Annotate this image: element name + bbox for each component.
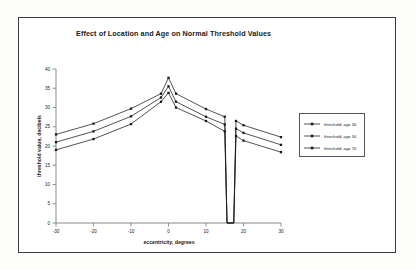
y-tick-label: 0 — [47, 221, 50, 226]
series-marker — [160, 92, 162, 94]
y-tick-label: 30 — [45, 105, 51, 110]
legend-canvas: threshold, age 30threshold, age 50thresh… — [300, 114, 364, 156]
y-tick-label: 15 — [45, 163, 51, 168]
series-marker — [280, 151, 282, 153]
series-marker — [205, 120, 207, 122]
y-axis-ticks: 0510152025303540 — [45, 67, 56, 226]
series-marker — [224, 116, 226, 118]
series-marker — [175, 106, 177, 108]
legend-entries: threshold, age 30threshold, age 50thresh… — [304, 122, 357, 151]
series-marker — [55, 149, 57, 151]
x-tick-label: 30 — [278, 229, 284, 234]
series-marker — [175, 101, 177, 103]
series-marker — [160, 96, 162, 98]
series-marker — [205, 108, 207, 110]
x-axis: -30-20-100102030 — [53, 223, 284, 234]
series-marker — [92, 130, 94, 132]
y-tick-label: 25 — [45, 124, 51, 129]
series-marker — [167, 85, 169, 87]
series-line — [56, 78, 281, 223]
series-threshold-age-50 — [55, 85, 282, 223]
legend-label: threshold, age 70 — [324, 146, 357, 151]
series-marker — [242, 139, 244, 141]
y-tick-label: 20 — [45, 144, 51, 149]
series-marker — [130, 123, 132, 125]
legend-marker — [311, 135, 314, 138]
series-line — [56, 86, 281, 223]
series-line — [56, 93, 281, 223]
series-marker — [242, 132, 244, 134]
series-marker — [130, 115, 132, 117]
y-axis: 0510152025303540 — [45, 67, 56, 226]
y-tick-label: 35 — [45, 86, 51, 91]
x-tick-label: 20 — [241, 229, 247, 234]
series-marker — [235, 128, 237, 130]
legend-label: threshold, age 50 — [324, 134, 357, 139]
x-tick-label: -10 — [128, 229, 135, 234]
series-marker — [167, 77, 169, 79]
series-marker — [280, 144, 282, 146]
series-marker — [224, 130, 226, 132]
x-tick-label: -30 — [53, 229, 60, 234]
x-axis-ticks: -30-20-100102030 — [53, 223, 284, 234]
x-tick-label: -20 — [90, 229, 97, 234]
series-marker — [92, 138, 94, 140]
series-marker — [160, 101, 162, 103]
series-marker — [175, 92, 177, 94]
series-marker — [92, 123, 94, 125]
series-marker — [235, 135, 237, 137]
legend-label: threshold, age 30 — [324, 122, 357, 127]
chart-title: Effect of Location and Age on Normal Thr… — [76, 29, 271, 38]
y-tick-label: 10 — [45, 182, 51, 187]
series-marker — [205, 116, 207, 118]
y-tick-label: 5 — [47, 201, 50, 206]
y-tick-label: 40 — [45, 67, 51, 72]
plot-series-group — [55, 77, 282, 223]
y-axis-label: threshold value, decibels — [36, 115, 42, 177]
legend-marker — [311, 147, 314, 150]
series-marker — [55, 141, 57, 143]
series-marker — [280, 136, 282, 138]
x-tick-label: 0 — [167, 229, 170, 234]
series-marker — [130, 108, 132, 110]
chart-legend: threshold, age 30threshold, age 50thresh… — [299, 113, 365, 157]
series-threshold-age-30 — [55, 77, 282, 223]
legend-marker — [311, 123, 314, 126]
series-marker — [235, 120, 237, 122]
series-marker — [242, 124, 244, 126]
x-tick-label: 10 — [203, 229, 209, 234]
series-marker — [167, 92, 169, 94]
series-threshold-age-70 — [55, 92, 282, 223]
series-marker — [224, 123, 226, 125]
x-axis-label: eccentricity, degrees — [143, 239, 194, 245]
series-marker — [55, 133, 57, 135]
